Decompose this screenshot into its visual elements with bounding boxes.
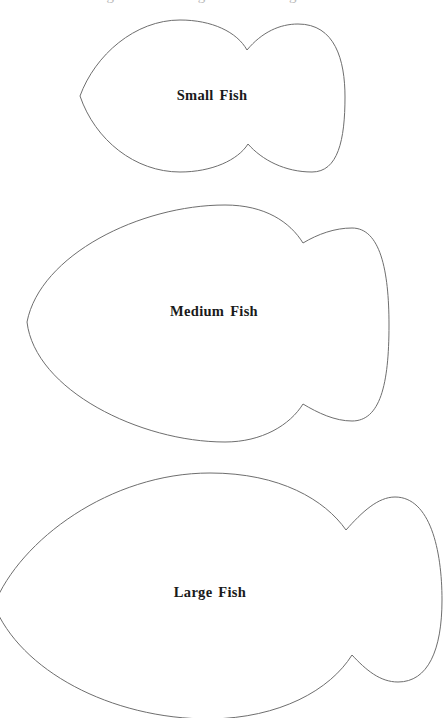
- medium-fish-outline: [27, 205, 389, 442]
- fish-outlines: [0, 0, 443, 718]
- worksheet-page: g g g Small Fish Medium Fish Large Fish: [0, 0, 443, 718]
- small-fish-label: Small Fish: [177, 87, 248, 104]
- large-fish-label: Large Fish: [174, 584, 246, 601]
- medium-fish-label: Medium Fish: [170, 303, 258, 320]
